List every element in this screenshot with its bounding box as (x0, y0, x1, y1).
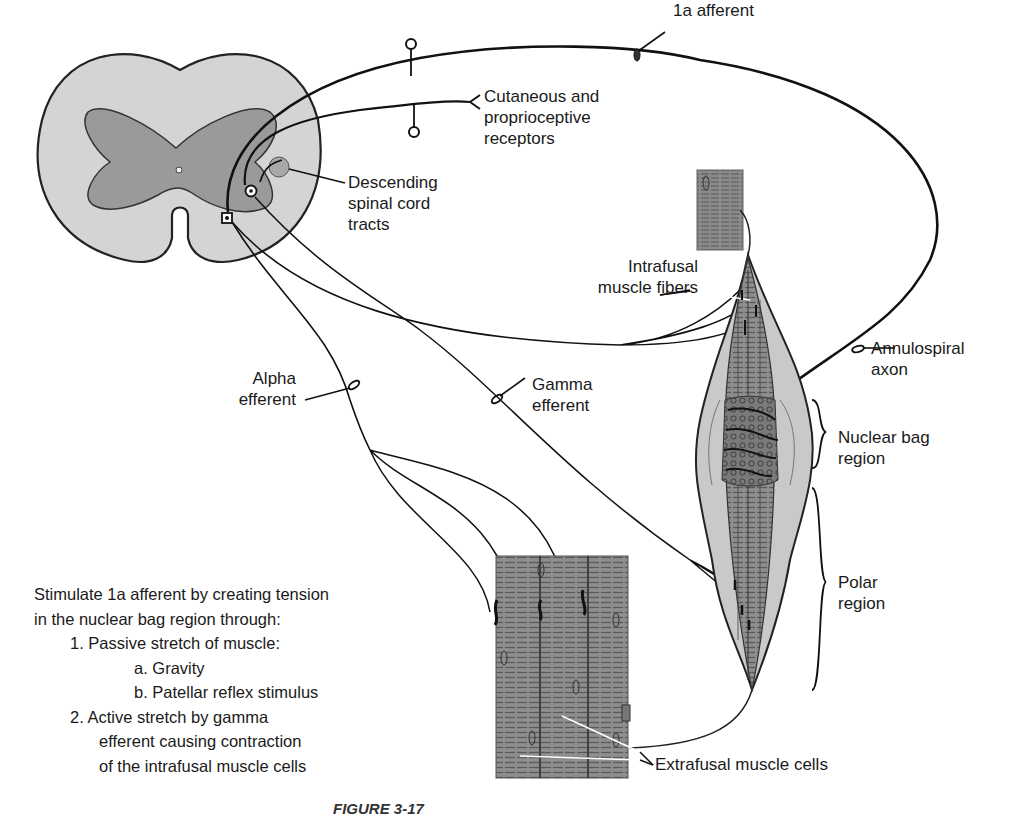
label-intrafusal-fibers: Intrafusalmuscle fibers (584, 256, 698, 298)
spinal-cord-section (38, 54, 321, 262)
label-descending-tracts: Descendingspinal cordtracts (348, 172, 438, 235)
label-1a-afferent: 1a afferent (673, 0, 754, 21)
notes-item-1: 1. Passive stretch of muscle: (34, 631, 329, 656)
notes-intro-line-1: Stimulate 1a afferent by creating tensio… (34, 582, 329, 607)
figure-caption-label: FIGURE 3-17 (333, 800, 424, 817)
extrafusal-muscle (495, 556, 653, 778)
notes-item-2-line-2: efferent causing contraction (34, 729, 329, 754)
figure-caption: FIGURE 3-17 (333, 800, 424, 818)
label-polar-region: Polarregion (838, 572, 885, 614)
label-alpha-efferent: Alphaefferent (220, 368, 296, 410)
label-gamma-efferent: Gammaefferent (532, 374, 592, 416)
notes-item-1a: a. Gravity (34, 656, 329, 681)
label-cutaneous-receptors: Cutaneous andproprioceptivereceptors (484, 86, 599, 149)
label-extrafusal-cells: Extrafusal muscle cells (655, 754, 828, 775)
stimulation-notes: Stimulate 1a afferent by creating tensio… (34, 582, 329, 778)
label-nuclear-bag-region: Nuclear bagregion (838, 427, 930, 469)
notes-item-1b: b. Patellar reflex stimulus (34, 680, 329, 705)
notes-item-2-line-3: of the intrafusal muscle cells (34, 754, 329, 779)
label-annulospiral-axon: Annulospiralaxon (871, 338, 965, 380)
notes-item-2-line-1: 2. Active stretch by gamma (34, 705, 329, 730)
notes-intro-line-2: in the nuclear bag region through: (34, 607, 329, 632)
